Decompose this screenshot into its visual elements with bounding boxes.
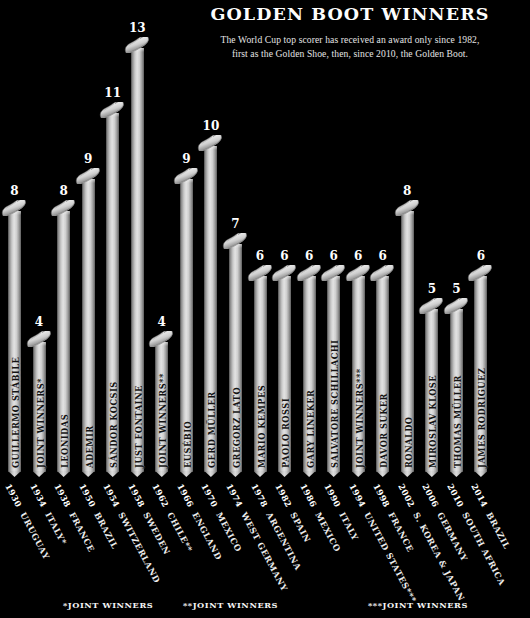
infographic-root: GOLDEN BOOT WINNERS The World Cup top sc…	[0, 0, 530, 618]
bar-group[interactable]: 6MARIO KEMPES	[254, 276, 267, 472]
bar-pole	[8, 211, 21, 472]
bar-pole	[376, 276, 389, 472]
bar-pole	[82, 179, 95, 472]
bar-value-label: 8	[43, 184, 84, 198]
bar-value-label: 5	[436, 282, 477, 296]
bar-pole	[155, 342, 168, 472]
bar-group[interactable]: 6GARY LINEKER	[303, 276, 316, 472]
bar-value-label: 6	[362, 249, 403, 263]
bar-group[interactable]: 8GUILLERMO STÁBILE	[8, 211, 21, 472]
bar-pole	[106, 113, 119, 472]
bar-value-label: 11	[92, 86, 133, 100]
bar-group[interactable]: 13JUST FONTAINE	[131, 48, 144, 472]
bar-group[interactable]: 6DAVOR SUKER	[376, 276, 389, 472]
bar-pole	[352, 276, 365, 472]
axis-label-host: SWITZERLAND	[113, 504, 162, 585]
bar-pole	[401, 211, 414, 472]
axis-label: 1966 ENGLAND	[175, 482, 224, 562]
bar-group[interactable]: 6JAMES RODRIGUEZ	[474, 276, 487, 472]
axis-label: 1930 URUGUAY	[3, 482, 51, 561]
bar-group[interactable]: 6JOINT WINNERS***	[352, 276, 365, 472]
axis-label-host: ITALY	[334, 504, 360, 542]
bar-group[interactable]: 9EUSÉBIO	[180, 179, 193, 472]
bar-group[interactable]: 4JOINT WINNERS*	[33, 342, 46, 472]
bar-value-label: 10	[190, 119, 231, 133]
bar-value-label: 8	[0, 184, 35, 198]
bar-value-label: 4	[19, 315, 60, 329]
bar-group[interactable]: 6PAOLO ROSSI	[278, 276, 291, 472]
bar-pole	[204, 146, 217, 472]
bar-value-label: 7	[215, 217, 256, 231]
bar-value-label: 13	[117, 21, 158, 35]
bar-pole	[33, 342, 46, 472]
bar-group[interactable]: 8LEONIDAS	[57, 211, 70, 472]
bar-group[interactable]: 10GERD MÜLLER	[204, 146, 217, 472]
bar-group[interactable]: 6SALVATORE SCHILLACHI	[327, 276, 340, 472]
bar-pole	[229, 244, 242, 472]
bar-pole	[57, 211, 70, 472]
bar-value-label: 9	[166, 152, 207, 166]
bar-value-label: 9	[68, 152, 109, 166]
bar-group[interactable]: 7GREGORZ LATO	[229, 244, 242, 472]
footnote-2: **JOINT WINNERS	[183, 600, 278, 610]
bar-value-label: 4	[141, 315, 182, 329]
bar-chart-plot: 8GUILLERMO STÁBILE1930 URUGUAY 4JOINT WI…	[0, 0, 530, 618]
bar-pole	[254, 276, 267, 472]
bar-group[interactable]: 5THOMAS MÜLLER	[450, 309, 463, 472]
bar-group[interactable]: 4JOINT WINNERS**	[155, 342, 168, 472]
bar-group[interactable]: 9ADEMIR	[82, 179, 95, 472]
bar-pole	[474, 276, 487, 472]
bar-value-label: 6	[460, 249, 501, 263]
axis-label: 2006 GERMANY	[421, 482, 470, 563]
bar-pole	[180, 179, 193, 472]
bar-value-label: 8	[387, 184, 428, 198]
bar-pole	[303, 276, 316, 472]
bar-pole	[278, 276, 291, 472]
bar-group[interactable]: 11SÁNDOR KOCSIS	[106, 113, 119, 472]
bar-pole	[131, 48, 144, 472]
bar-pole	[327, 276, 340, 472]
footnote-3: ***JOINT WINNERS	[368, 600, 468, 610]
bar-pole	[450, 309, 463, 472]
bar-group[interactable]: 5MIROSLAV KLOSE	[425, 309, 438, 472]
bar-group[interactable]: 8RONALDO	[401, 211, 414, 472]
bar-pole	[425, 309, 438, 472]
axis-label-host: SPAIN	[285, 504, 313, 544]
footnote-1: *JOINT WINNERS	[63, 600, 153, 610]
